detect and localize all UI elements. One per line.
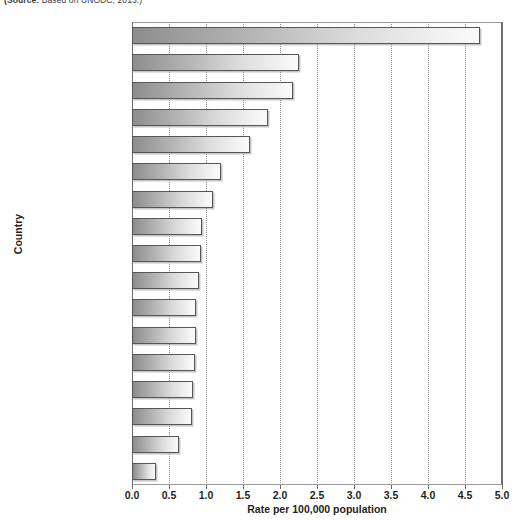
x-tick-label: 4.0 (408, 489, 448, 501)
x-tick-label: 2.0 (260, 489, 300, 501)
bar[interactable] (132, 299, 196, 316)
bar-row[interactable] (0, 267, 524, 294)
x-tick-label: 0.5 (149, 489, 189, 501)
bar[interactable] (132, 354, 195, 371)
bar-row[interactable] (0, 240, 524, 267)
x-tick-label: 1.5 (223, 489, 263, 501)
x-tick-label: 0.0 (112, 489, 152, 501)
bar-row[interactable] (0, 22, 524, 49)
bar-row[interactable] (0, 185, 524, 212)
bar-row[interactable] (0, 294, 524, 321)
x-tick-label: 2.5 (297, 489, 337, 501)
bar-row[interactable] (0, 158, 524, 185)
bar[interactable] (132, 272, 199, 289)
bar-row[interactable] (0, 49, 524, 76)
x-tick-label: 4.5 (445, 489, 485, 501)
bar[interactable] (132, 327, 196, 344)
bar[interactable] (132, 82, 293, 99)
x-tick-label: 3.0 (334, 489, 374, 501)
bar-row[interactable] (0, 322, 524, 349)
x-axis-title: Rate per 100,000 population (132, 503, 502, 515)
bar[interactable] (132, 54, 299, 71)
bar-row[interactable] (0, 76, 524, 103)
bar[interactable] (132, 408, 192, 425)
x-tick-label: 5.0 (482, 489, 522, 501)
bar-chart-figure: United StatesNorwayFinlandBelgiumCanadaF… (0, 0, 524, 520)
bar-row[interactable] (0, 213, 524, 240)
bar-row[interactable] (0, 431, 524, 458)
x-tick-label: 3.5 (371, 489, 411, 501)
x-tick-label: 1.0 (186, 489, 226, 501)
bar[interactable] (132, 436, 179, 453)
bar[interactable] (132, 136, 250, 153)
bar[interactable] (132, 27, 480, 44)
bar-row[interactable] (0, 376, 524, 403)
bar-row[interactable] (0, 349, 524, 376)
bar-row[interactable] (0, 104, 524, 131)
bar[interactable] (132, 463, 156, 480)
bar[interactable] (132, 163, 221, 180)
y-axis-title: Country (12, 194, 24, 274)
bar-row[interactable] (0, 131, 524, 158)
bar[interactable] (132, 381, 193, 398)
bar-row[interactable] (0, 458, 524, 485)
bar[interactable] (132, 109, 268, 126)
bar[interactable] (132, 245, 201, 262)
bar[interactable] (132, 191, 213, 208)
bar[interactable] (132, 218, 202, 235)
bar-row[interactable] (0, 403, 524, 430)
